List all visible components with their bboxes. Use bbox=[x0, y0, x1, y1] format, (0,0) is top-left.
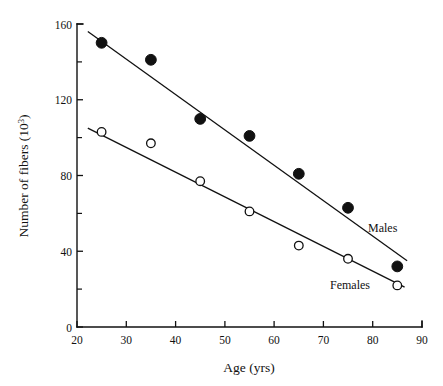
x-tick-label-70: 70 bbox=[318, 334, 330, 346]
series-males-points bbox=[96, 37, 403, 271]
x-tick-labels: 20 30 40 50 60 70 80 90 bbox=[71, 334, 428, 346]
data-point-male-65 bbox=[293, 168, 304, 179]
data-point-female-65 bbox=[295, 241, 304, 250]
x-tick-label-40: 40 bbox=[170, 334, 182, 346]
data-point-male-75 bbox=[343, 202, 354, 213]
y-axis-title: Number of fibers (103) bbox=[16, 114, 31, 237]
series-females-points bbox=[97, 128, 401, 290]
x-tick-label-30: 30 bbox=[121, 334, 133, 346]
y-axis-title-suffix: ) bbox=[16, 114, 31, 119]
y-tick-label-0: 0 bbox=[66, 322, 72, 334]
x-axis-ticks bbox=[77, 321, 422, 327]
data-point-female-85 bbox=[393, 281, 402, 290]
x-tick-label-90: 90 bbox=[416, 334, 428, 346]
x-tick-label-60: 60 bbox=[268, 334, 280, 346]
scatter-plot: 160 120 80 40 0 20 30 40 50 60 70 80 90 … bbox=[0, 0, 443, 386]
data-point-male-35 bbox=[146, 54, 157, 65]
trendline-males bbox=[88, 32, 407, 261]
y-tick-label-160: 160 bbox=[55, 19, 73, 31]
y-tick-labels: 160 120 80 40 0 bbox=[55, 19, 73, 334]
data-point-male-55 bbox=[244, 131, 255, 142]
axes bbox=[77, 24, 422, 327]
trend-lines bbox=[88, 32, 407, 288]
x-tick-label-80: 80 bbox=[367, 334, 379, 346]
y-tick-label-120: 120 bbox=[55, 94, 73, 106]
data-point-male-25 bbox=[96, 37, 107, 48]
y-axis-title-main: Number of fibers (10 bbox=[16, 123, 31, 238]
data-point-male-45 bbox=[195, 114, 206, 125]
data-point-male-85 bbox=[392, 261, 403, 272]
trendline-females bbox=[88, 128, 405, 287]
y-tick-label-40: 40 bbox=[61, 246, 73, 258]
x-tick-label-50: 50 bbox=[219, 334, 231, 346]
y-tick-label-80: 80 bbox=[61, 170, 73, 182]
data-point-female-45 bbox=[196, 177, 205, 186]
x-axis-title: Age (yrs) bbox=[223, 360, 274, 375]
data-point-female-75 bbox=[344, 254, 353, 263]
svg-text:Number of fibers (103): Number of fibers (103) bbox=[16, 114, 31, 237]
figure-container: 160 120 80 40 0 20 30 40 50 60 70 80 90 … bbox=[0, 0, 443, 386]
series-label-males: Males bbox=[368, 221, 398, 235]
data-point-female-35 bbox=[147, 139, 156, 148]
series-label-females: Females bbox=[330, 278, 370, 292]
data-point-female-25 bbox=[97, 128, 106, 137]
y-axis-major-ticks bbox=[77, 24, 83, 327]
data-point-female-55 bbox=[245, 207, 254, 216]
x-tick-label-20: 20 bbox=[71, 334, 83, 346]
